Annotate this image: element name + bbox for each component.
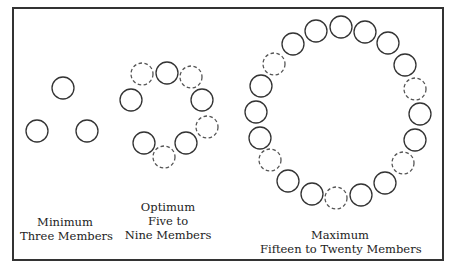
label-optimum: Optimum Five to Nine Members <box>112 200 224 242</box>
member-circle <box>120 89 142 111</box>
optional-member-circle <box>131 63 153 85</box>
label-maximum: Maximum Fifteen to Twenty Members <box>260 228 420 256</box>
member-circle <box>282 33 304 55</box>
member-circle <box>301 183 323 205</box>
member-circle <box>394 54 416 76</box>
member-circle <box>191 89 213 111</box>
member-circle <box>330 16 352 38</box>
member-circle <box>76 120 98 142</box>
optional-member-circle <box>153 146 175 168</box>
optional-member-circle <box>392 152 414 174</box>
member-circle <box>175 132 197 154</box>
member-circle <box>277 170 299 192</box>
member-circle <box>354 21 376 43</box>
member-circle <box>245 101 267 123</box>
member-circle <box>26 120 48 142</box>
member-circle <box>156 62 178 84</box>
label-minimum-line2: Three Members <box>20 229 110 243</box>
member-circle <box>133 132 155 154</box>
member-circle <box>52 77 74 99</box>
group-optimum <box>120 62 218 168</box>
optional-member-circle <box>263 53 285 75</box>
group-maximum <box>245 16 431 209</box>
member-circle <box>404 129 426 151</box>
member-circle <box>374 172 396 194</box>
label-optimum-line1: Optimum <box>112 200 224 214</box>
member-circle <box>350 184 372 206</box>
optional-member-circle <box>259 149 281 171</box>
label-optimum-line2: Five to <box>112 214 224 228</box>
optional-member-circle <box>180 66 202 88</box>
optional-member-circle <box>404 78 426 100</box>
label-maximum-line2: Fifteen to Twenty Members <box>260 242 420 256</box>
label-minimum-line1: Minimum <box>20 215 110 229</box>
label-optimum-line3: Nine Members <box>112 228 224 242</box>
member-circle <box>305 20 327 42</box>
optional-member-circle <box>196 116 218 138</box>
member-circle <box>377 32 399 54</box>
member-circle <box>249 127 271 149</box>
group-minimum <box>26 77 98 142</box>
member-circle <box>409 103 431 125</box>
member-circle <box>250 75 272 97</box>
label-maximum-line1: Maximum <box>260 228 420 242</box>
label-minimum: Minimum Three Members <box>20 215 110 243</box>
optional-member-circle <box>325 187 347 209</box>
